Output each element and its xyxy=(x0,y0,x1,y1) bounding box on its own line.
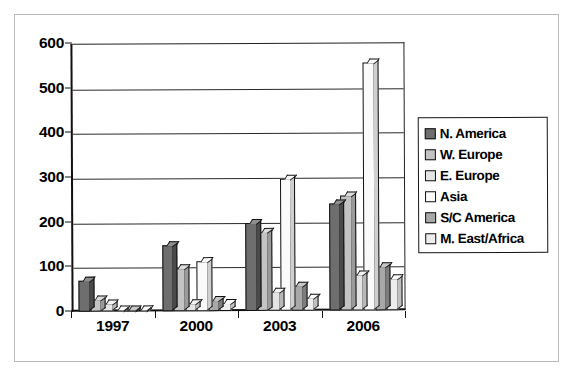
legend-label: N. America xyxy=(440,126,506,141)
y-axis-label-400: 400 xyxy=(20,123,64,141)
legend-item-s-c-america[interactable]: S/C America xyxy=(425,207,543,229)
bar-2000-n-america xyxy=(162,245,174,311)
legend-swatch-icon xyxy=(425,149,436,160)
legend-label: W. Europe xyxy=(440,147,502,162)
bar-side-face xyxy=(314,295,319,310)
legend-label: Asia xyxy=(440,189,467,204)
y-axis-label-0: 0 xyxy=(20,302,64,320)
legend-swatch-icon xyxy=(425,191,436,202)
bar-side-face xyxy=(267,229,272,310)
legend-swatch-icon xyxy=(425,170,436,181)
bar-2003-n-america xyxy=(245,223,257,311)
bar-chart: 0100200300400500600 1997200020032006 N. … xyxy=(0,0,573,378)
x-tick-end xyxy=(405,311,406,318)
legend-item-m-east-africa[interactable]: M. East/Africa xyxy=(425,228,543,250)
bar-side-face xyxy=(302,284,307,310)
legend-label: M. East/Africa xyxy=(440,231,524,246)
bar-1997-n-america xyxy=(78,280,90,311)
bar-side-face xyxy=(184,265,189,310)
x-axis-label-2003: 2003 xyxy=(263,317,296,335)
bar-side-face xyxy=(89,278,94,311)
legend-label: E. Europe xyxy=(440,168,499,183)
bar-side-face xyxy=(373,60,379,310)
bar-side-face xyxy=(279,289,284,310)
legend-item-w-europe[interactable]: W. Europe xyxy=(425,144,543,166)
legend: N. AmericaW. EuropeE. EuropeAsiaS/C Amer… xyxy=(418,117,549,254)
bar-side-face xyxy=(339,201,344,310)
bars-layer xyxy=(70,42,405,311)
bar-side-face xyxy=(386,264,391,309)
legend-swatch-icon xyxy=(425,233,436,244)
bar-side-face xyxy=(290,176,296,309)
bar-side-face xyxy=(397,275,402,309)
legend-item-e-europe[interactable]: E. Europe xyxy=(425,165,543,187)
y-axis-labels: 0100200300400500600 xyxy=(18,43,64,311)
bar-side-face xyxy=(351,193,356,310)
bar-side-face xyxy=(207,258,212,310)
bar-side-face xyxy=(172,243,177,311)
legend-item-n-america[interactable]: N. America xyxy=(425,123,543,145)
x-axis-label-2006: 2006 xyxy=(347,317,380,335)
legend-swatch-icon xyxy=(425,128,436,139)
x-axis-label-1997: 1997 xyxy=(96,317,129,335)
legend-swatch-icon xyxy=(425,212,436,223)
bar-side-face xyxy=(231,301,236,310)
legend-item-asia[interactable]: Asia xyxy=(425,186,543,208)
bar-2006-n-america xyxy=(329,203,341,310)
bar-side-face xyxy=(363,272,368,309)
y-axis-label-300: 300 xyxy=(20,168,64,186)
y-axis-label-600: 600 xyxy=(20,34,64,52)
y-axis-label-100: 100 xyxy=(20,257,64,275)
x-axis-labels: 1997200020032006 xyxy=(71,317,405,343)
legend-label: S/C America xyxy=(440,210,515,225)
y-axis-label-200: 200 xyxy=(20,213,64,231)
bar-side-face xyxy=(256,220,261,310)
x-axis-label-2000: 2000 xyxy=(180,317,213,335)
y-axis-label-500: 500 xyxy=(20,79,64,97)
